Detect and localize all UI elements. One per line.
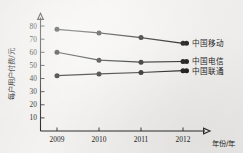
legend-label: 中国联通 xyxy=(192,66,224,76)
x-tick-label: 2012 xyxy=(176,135,191,144)
data-series xyxy=(55,68,186,78)
y-axis-title: 每户用户付费/元 xyxy=(7,47,16,99)
x-tick-label: 2009 xyxy=(50,135,65,144)
series-line xyxy=(57,52,183,62)
y-tick-label: 20 xyxy=(30,100,38,109)
data-point xyxy=(55,27,60,32)
data-point xyxy=(97,71,102,76)
y-tick-label: 30 xyxy=(30,87,38,96)
data-point xyxy=(97,30,102,35)
data-point xyxy=(55,50,60,55)
x-tick-label: 2011 xyxy=(134,135,149,144)
x-axis: 2009201020112012 xyxy=(41,128,211,145)
x-axis-title: 年份/年 xyxy=(212,139,236,148)
legend-marker xyxy=(184,59,189,64)
legend-entry: 中国移动 xyxy=(183,38,224,48)
data-point xyxy=(139,35,144,40)
legend-marker xyxy=(184,41,189,46)
chart-screenshot: 1020304050607080 2009201020112012 中国移动中国… xyxy=(0,0,243,153)
legend-label: 中国电信 xyxy=(192,56,224,66)
chart-legend: 中国移动中国电信中国联通 xyxy=(183,38,224,75)
y-axis-ticks xyxy=(41,26,45,118)
y-tick-label: 60 xyxy=(30,48,38,57)
series-layer xyxy=(55,27,186,78)
legend-marker xyxy=(184,68,189,73)
legend-entry: 中国联通 xyxy=(183,66,224,76)
series-line xyxy=(57,29,183,43)
data-point xyxy=(139,70,144,75)
y-tick-label: 50 xyxy=(30,61,38,70)
legend-label: 中国移动 xyxy=(192,38,224,48)
series-line xyxy=(57,71,183,76)
y-tick-label: 40 xyxy=(30,74,38,83)
y-tick-label: 70 xyxy=(30,35,38,44)
y-axis: 1020304050607080 xyxy=(30,13,45,131)
data-point xyxy=(55,73,60,78)
legend-entry: 中国电信 xyxy=(183,56,224,66)
x-axis-tick-labels: 2009201020112012 xyxy=(50,135,191,144)
y-axis-tick-labels: 1020304050607080 xyxy=(30,22,38,123)
data-series xyxy=(55,50,186,65)
data-series xyxy=(55,27,186,46)
x-tick-label: 2010 xyxy=(92,135,107,144)
data-point xyxy=(139,60,144,65)
data-point xyxy=(97,58,102,63)
y-tick-label: 80 xyxy=(30,22,38,31)
line-chart: 1020304050607080 2009201020112012 中国移动中国… xyxy=(0,0,243,153)
y-tick-label: 10 xyxy=(30,113,38,122)
